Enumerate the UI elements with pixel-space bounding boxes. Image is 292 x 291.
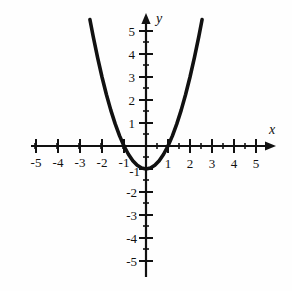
x-tick-label--3: -3 xyxy=(75,155,86,170)
x-tick-label-4: 4 xyxy=(231,156,238,171)
y-tick-label--3: -3 xyxy=(126,208,137,223)
y-tick-label-2: 2 xyxy=(129,93,136,108)
y-tick-label--2: -2 xyxy=(126,185,137,200)
y-tick-label-4: 4 xyxy=(129,47,136,62)
y-tick-label--5: -5 xyxy=(126,254,137,269)
y-tick-label-5: 5 xyxy=(129,24,136,39)
y-tick-label--4: -4 xyxy=(126,231,137,246)
x-tick-label-5: 5 xyxy=(253,156,260,171)
x-tick-label--2: -2 xyxy=(97,155,108,170)
x-tick-label--4: -4 xyxy=(53,155,64,170)
parabola-plot: -5 -4 -3 -2 -1 1 2 3 4 5 5 4 3 2 1 -1 -2… xyxy=(0,0,292,291)
x-tick-label--5: -5 xyxy=(31,155,42,170)
y-axis-label: y xyxy=(154,11,163,26)
x-tick-label-1: 1 xyxy=(165,156,172,171)
x-axis-label: x xyxy=(268,122,276,137)
y-tick-label-3: 3 xyxy=(129,70,136,85)
x-tick-label--1: -1 xyxy=(119,155,130,170)
graph-screenshot: -5 -4 -3 -2 -1 1 2 3 4 5 5 4 3 2 1 -1 -2… xyxy=(0,0,292,291)
x-tick-label-2: 2 xyxy=(187,156,194,171)
x-tick-label-3: 3 xyxy=(209,156,216,171)
y-tick-label-1: 1 xyxy=(129,116,136,131)
